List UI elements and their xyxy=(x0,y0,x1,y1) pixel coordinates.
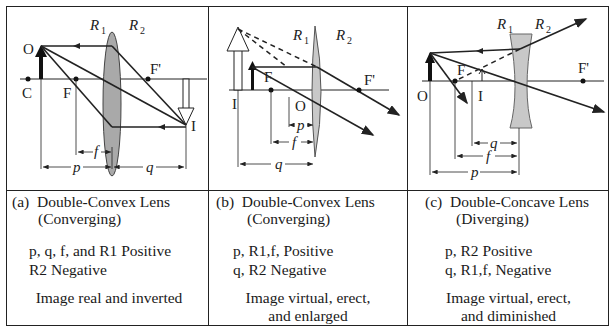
label-image: I xyxy=(478,88,483,104)
caption-type: (Converging) xyxy=(12,210,170,227)
label-image: I xyxy=(232,96,237,112)
sign-convention-b: p, R1,f, Positive q, R2 Negative xyxy=(233,241,333,279)
label-image: I xyxy=(191,118,196,134)
object-arrow xyxy=(248,61,257,90)
label-focal-point-prime: F' xyxy=(364,72,375,88)
svg-text:2: 2 xyxy=(347,35,352,46)
negative-quantities: R2 Negative xyxy=(29,260,171,279)
label-q: q xyxy=(146,159,154,175)
label-focal-point: F xyxy=(457,62,465,78)
caption-type: (Converging) xyxy=(216,210,375,227)
sign-convention-a: p, q, f, and R1 Positive R2 Negative xyxy=(29,241,171,279)
label-object: O xyxy=(295,98,306,114)
svg-text:2: 2 xyxy=(546,24,551,35)
label-p: p xyxy=(72,159,81,175)
label-f: f xyxy=(292,134,298,150)
row-divider xyxy=(6,190,609,191)
label-f: f xyxy=(94,143,100,159)
diagram-double-concave: O F I F' R 1 R 2 q f p xyxy=(408,7,608,190)
negative-quantities: q, R1,f, Negative xyxy=(445,260,551,279)
positive-quantities: p, R1,f, Positive xyxy=(233,241,333,260)
label-r2: R xyxy=(128,17,138,33)
svg-text:2: 2 xyxy=(140,25,145,36)
label-center: C xyxy=(22,85,32,101)
label-r1: R xyxy=(496,16,506,32)
caption-title: Double-Convex Lens xyxy=(242,193,375,210)
label-object: O xyxy=(23,41,34,57)
image-arrow xyxy=(227,27,249,90)
positive-quantities: p, q, f, and R1 Positive xyxy=(29,241,171,260)
label-r1: R xyxy=(292,27,302,43)
convex-lens-shape xyxy=(312,26,321,157)
object-arrow xyxy=(425,52,435,81)
svg-text:1: 1 xyxy=(101,25,106,36)
label-r1: R xyxy=(89,17,99,33)
svg-text:1: 1 xyxy=(304,35,309,46)
caption-a: (a) Double-Convex Lens (Converging) xyxy=(12,193,170,227)
label-object: O xyxy=(417,88,428,104)
image-description-a: Image real and inverted xyxy=(10,289,208,307)
label-r2: R xyxy=(534,16,544,32)
image-description-c: Image virtual, erect, and diminished xyxy=(408,289,609,325)
sign-convention-c: p, R2 Positive q, R1,f, Negative xyxy=(445,241,551,279)
label-p: p xyxy=(296,117,305,133)
caption-b: (b) Double-Convex Lens (Converging) xyxy=(216,193,375,227)
label-focal-point: F xyxy=(264,69,272,85)
label-q: q xyxy=(275,156,283,172)
svg-text:1: 1 xyxy=(508,24,513,35)
diagram-double-convex-real: O C F F' I R 1 R 2 f p q xyxy=(8,7,207,190)
caption-c: (c) Double-Concave Lens (Diverging) xyxy=(425,193,589,227)
label-p: p xyxy=(470,164,479,180)
label-focal-point: F xyxy=(63,85,71,101)
diagram-double-convex-virtual: I F O F' R 1 R 2 p f q xyxy=(209,7,406,190)
caption-title: Double-Convex Lens xyxy=(37,193,170,210)
label-r2: R xyxy=(335,27,345,43)
caption-title: Double-Concave Lens xyxy=(450,193,589,210)
negative-quantities: q, R2 Negative xyxy=(233,260,333,279)
label-focal-point-prime: F' xyxy=(578,60,589,76)
label-focal-point-prime: F' xyxy=(150,61,161,77)
positive-quantities: p, R2 Positive xyxy=(445,241,551,260)
label-q: q xyxy=(490,135,498,151)
caption-type: (Diverging) xyxy=(425,210,589,227)
image-description-b: Image virtual, erect, and enlarged xyxy=(209,289,407,325)
